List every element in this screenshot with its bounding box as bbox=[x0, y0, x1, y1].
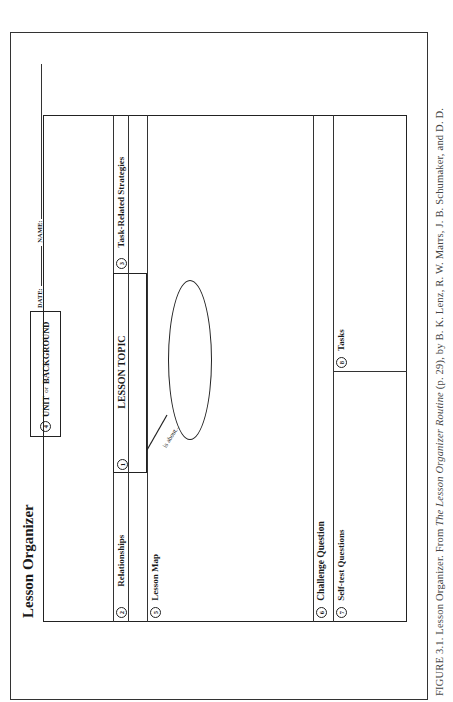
caption-source-title: The Lesson Organizer Routine bbox=[434, 392, 445, 526]
challenge-question-label: Challenge Question bbox=[316, 521, 326, 600]
lesson-map-ellipse[interactable] bbox=[168, 280, 212, 440]
rotated-page: Lesson Organizer 4 UNIT or BACKGROUND DA… bbox=[0, 0, 453, 702]
self-test-label: Self-test Questions bbox=[336, 530, 346, 601]
tasks-header: 8 Tasks bbox=[336, 329, 347, 368]
caption-suffix: (p. 29), by B. K. Lenz, R. W. Marrs, J. … bbox=[434, 108, 445, 392]
tasks-label: Tasks bbox=[336, 329, 346, 351]
caption-prefix: FIGURE 3.1. Lesson Organizer. From bbox=[434, 526, 445, 696]
figure-caption: FIGURE 3.1. Lesson Organizer. From The L… bbox=[434, 108, 445, 696]
section-number-8: 8 bbox=[336, 357, 347, 368]
self-test-header: 7 Self-test Questions bbox=[336, 530, 347, 619]
section-number-7: 7 bbox=[336, 607, 347, 618]
section-number-6: 6 bbox=[316, 607, 327, 618]
map-connector bbox=[0, 0, 453, 702]
challenge-question-header: 6 Challenge Question bbox=[316, 521, 327, 618]
